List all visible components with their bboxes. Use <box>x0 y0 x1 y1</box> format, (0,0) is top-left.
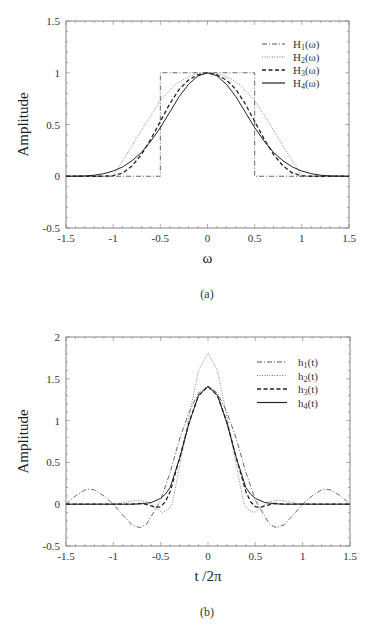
y-axis-label: Amplitude <box>15 409 31 474</box>
x-axis-label: t /2π <box>194 568 222 584</box>
y-tick-label: -0.5 <box>43 540 61 552</box>
legend-label: h1(t) <box>298 356 318 370</box>
x-tick-label: 1.5 <box>342 232 356 244</box>
x-axis-label: ω <box>203 250 213 266</box>
figure-caption: (b) <box>200 605 214 619</box>
x-tick-label: -1 <box>109 232 118 244</box>
legend: h1(t)h2(t)h3(t)h4(t) <box>257 356 318 411</box>
y-tick-label: 1 <box>55 415 61 427</box>
figure: -1.5-1-0.500.511.5-0.500.511.5ωAmplitude… <box>0 0 373 634</box>
y-tick-label: 0 <box>55 498 61 510</box>
y-tick-label: -0.5 <box>43 222 61 234</box>
legend-item: h4(t) <box>257 397 318 411</box>
x-tick-label: 0.5 <box>248 550 262 562</box>
y-tick-label: 1 <box>55 67 61 79</box>
x-tick-label: 1 <box>300 550 306 562</box>
legend-label: h3(t) <box>298 383 318 397</box>
y-tick-label: 2 <box>55 331 61 343</box>
legend-label: H4(ω) <box>293 77 320 91</box>
y-tick-label: 0.5 <box>46 456 60 468</box>
x-tick-label: 0 <box>205 550 211 562</box>
x-tick-label: 1 <box>299 232 305 244</box>
x-tick-label: -0.5 <box>152 550 170 562</box>
legend-label: H2(ω) <box>293 51 320 65</box>
legend-item: H4(ω) <box>262 77 320 91</box>
legend-item: H1(ω) <box>262 38 320 52</box>
x-tick-label: 0.5 <box>248 232 262 244</box>
legend-item: H3(ω) <box>262 64 320 78</box>
y-tick-label: 0 <box>55 170 61 182</box>
legend-label: h4(t) <box>298 397 318 411</box>
legend-item: H2(ω) <box>262 51 320 65</box>
legend: H1(ω)H2(ω)H3(ω)H4(ω) <box>262 38 320 91</box>
legend-item: h2(t) <box>257 370 318 384</box>
x-tick-label: -0.5 <box>152 232 170 244</box>
y-tick-label: 0.5 <box>46 119 60 131</box>
y-axis-label: Amplitude <box>15 92 31 157</box>
legend-label: H3(ω) <box>293 64 320 78</box>
legend-item: h1(t) <box>257 356 318 370</box>
y-tick-label: 1.5 <box>46 15 60 27</box>
legend-label: h2(t) <box>298 370 318 384</box>
y-tick-label: 1.5 <box>46 373 60 385</box>
chart-a-frequency-response: -1.5-1-0.500.511.5-0.500.511.5ωAmplitude… <box>15 15 356 301</box>
legend-label: H1(ω) <box>293 38 320 52</box>
legend-item: h3(t) <box>257 383 318 397</box>
chart-b-impulse-response: -1.5-1-0.500.511.5-0.500.511.52t /2πAmpl… <box>15 331 357 619</box>
x-tick-label: -1 <box>109 550 118 562</box>
figure-caption: (a) <box>200 287 213 301</box>
x-tick-label: 0 <box>205 232 211 244</box>
x-tick-label: 1.5 <box>343 550 357 562</box>
